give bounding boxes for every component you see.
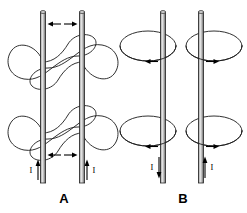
wire-b-right-body	[198, 12, 203, 183]
wire-b-left	[160, 11, 165, 184]
wire-b-right-tip	[198, 11, 203, 14]
wire-a-left-body	[40, 12, 45, 183]
wire-b-right	[198, 11, 203, 184]
figure-background	[0, 0, 247, 213]
wire-a-right-body	[79, 12, 84, 183]
wire-a-right-tip	[79, 11, 84, 14]
figure-canvas: I I A	[0, 0, 247, 213]
wire-b-left-body	[160, 12, 165, 183]
panel-a-caption: A	[59, 191, 69, 206]
current-label-a-left: I	[30, 165, 33, 175]
current-label-b-right: I	[211, 162, 214, 172]
panel-b-caption: B	[178, 191, 187, 206]
wire-b-left-tip	[160, 11, 165, 14]
current-label-b-left: I	[151, 162, 154, 172]
wire-a-left-tip	[40, 11, 45, 14]
physics-figure: I I A	[0, 0, 247, 213]
wire-a-left	[40, 11, 45, 184]
current-label-a-right: I	[93, 165, 96, 175]
wire-a-right	[79, 11, 84, 184]
